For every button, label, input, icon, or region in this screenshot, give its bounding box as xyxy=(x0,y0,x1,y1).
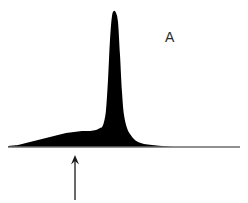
panel-label-a: A xyxy=(165,30,174,45)
shoulder-arrow xyxy=(71,155,79,200)
chromatogram-plot xyxy=(0,0,248,203)
trace-filled-curve xyxy=(8,11,240,147)
figure-panel: A xyxy=(0,0,248,203)
